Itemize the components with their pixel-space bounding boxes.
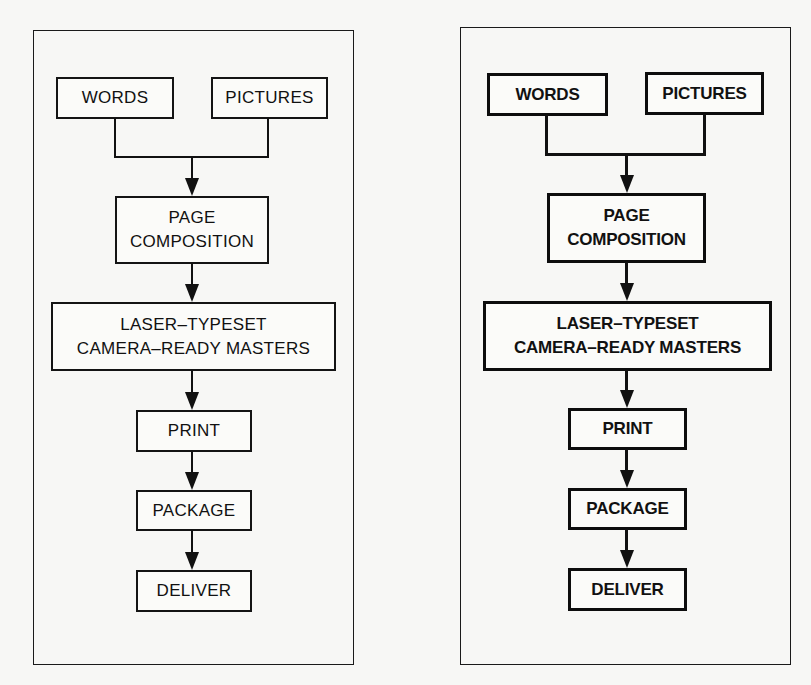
node-words: WORDS	[56, 77, 174, 119]
node-words: WORDS	[487, 73, 608, 116]
connector-pictures-down	[267, 118, 269, 157]
connector	[191, 263, 193, 285]
connector	[191, 451, 193, 473]
arrow-down-icon	[620, 550, 634, 568]
arrow-down-icon	[185, 392, 199, 410]
node-laser-typeset: LASER–TYPESET CAMERA–READY MASTERS	[483, 301, 772, 371]
arrow-down-icon	[185, 472, 199, 490]
connector	[625, 449, 628, 471]
node-print: PRINT	[568, 408, 687, 450]
connector	[625, 262, 628, 284]
arrow-down-icon	[620, 175, 634, 193]
node-pictures: PICTURES	[645, 72, 764, 115]
node-deliver: DELIVER	[568, 568, 687, 611]
arrow-down-icon	[620, 283, 634, 301]
node-page-composition: PAGE COMPOSITION	[547, 193, 706, 263]
connector	[625, 370, 628, 392]
arrow-down-icon	[620, 390, 634, 408]
node-deliver: DELIVER	[136, 570, 252, 612]
connector-join-down	[191, 157, 193, 179]
arrow-down-icon	[185, 552, 199, 570]
connector	[191, 530, 193, 553]
node-page-composition: PAGE COMPOSITION	[115, 196, 269, 264]
arrow-down-icon	[185, 178, 199, 196]
arrow-down-icon	[185, 284, 199, 302]
arrow-down-icon	[620, 470, 634, 488]
node-package: PACKAGE	[136, 490, 252, 531]
node-pictures: PICTURES	[211, 77, 328, 119]
connector-join-down	[625, 155, 628, 177]
node-print: PRINT	[136, 410, 252, 452]
connector	[191, 370, 193, 393]
connector	[625, 529, 628, 551]
connector-words-down	[545, 115, 548, 155]
connector-words-down	[114, 118, 116, 157]
connector-pictures-down	[703, 114, 706, 155]
node-package: PACKAGE	[568, 488, 687, 530]
node-laser-typeset: LASER–TYPESET CAMERA–READY MASTERS	[51, 302, 336, 371]
